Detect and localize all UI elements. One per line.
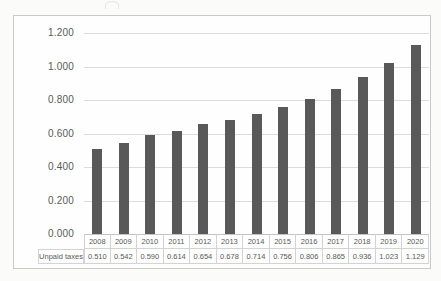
bar-2010 xyxy=(145,135,155,234)
table-value-cell: 0.542 xyxy=(111,249,138,264)
table-value-cell: 0.714 xyxy=(243,249,270,264)
y-tick-label: 0.000 xyxy=(24,229,74,239)
table-year-cell: 2013 xyxy=(217,234,244,249)
y-tick-label: 0.800 xyxy=(24,95,74,105)
table-year-cell: 2012 xyxy=(190,234,217,249)
bar-2017 xyxy=(331,89,341,234)
bar-2015 xyxy=(278,107,288,234)
bar-chart: 0.0000.2000.4000.6000.8001.0001.20020080… xyxy=(13,15,431,269)
table-year-cell: 2015 xyxy=(270,234,297,249)
bar-2013 xyxy=(225,120,235,234)
gridline xyxy=(84,100,429,101)
table-value-cell: 0.654 xyxy=(190,249,217,264)
table-year-cell: 2011 xyxy=(164,234,191,249)
bar-2012 xyxy=(198,124,208,234)
table-year-cell: 2018 xyxy=(349,234,376,249)
table-value-cell: 0.678 xyxy=(217,249,244,264)
bar-2019 xyxy=(384,63,394,234)
table-value-cell: 0.936 xyxy=(349,249,376,264)
table-value-cell: 0.614 xyxy=(164,249,191,264)
table-value-cell: 0.865 xyxy=(323,249,350,264)
table-value-cell: 0.590 xyxy=(137,249,164,264)
table-year-cell: 2010 xyxy=(137,234,164,249)
y-tick-label: 0.200 xyxy=(24,196,74,206)
bar-2008 xyxy=(92,149,102,234)
gridline xyxy=(84,33,429,34)
table-value-cell: 0.510 xyxy=(84,249,111,264)
table-year-cell: 2008 xyxy=(84,234,111,249)
table-year-cell: 2019 xyxy=(376,234,403,249)
bar-2009 xyxy=(119,143,129,234)
series-label-cell: Unpaid taxes xyxy=(38,249,84,264)
table-year-cell: 2020 xyxy=(402,234,429,249)
table-year-cell: 2014 xyxy=(243,234,270,249)
table-year-cell: 2016 xyxy=(296,234,323,249)
scanned-document-page: 0.0000.2000.4000.6000.8001.0001.20020080… xyxy=(0,0,441,281)
bar-2018 xyxy=(358,77,368,234)
y-tick-label: 1.000 xyxy=(24,62,74,72)
bar-2016 xyxy=(305,99,315,234)
bar-2014 xyxy=(252,114,262,234)
y-tick-label: 0.400 xyxy=(24,162,74,172)
table-year-cell: 2017 xyxy=(323,234,350,249)
y-tick-label: 1.200 xyxy=(24,28,74,38)
table-value-cell: 1.129 xyxy=(402,249,429,264)
table-value-cell: 0.756 xyxy=(270,249,297,264)
gridline xyxy=(84,67,429,68)
table-value-cell: 0.806 xyxy=(296,249,323,264)
table-value-cell: 1.023 xyxy=(376,249,403,264)
y-tick-label: 0.600 xyxy=(24,129,74,139)
table-year-cell: 2009 xyxy=(111,234,138,249)
bar-2020 xyxy=(411,45,421,234)
bar-2011 xyxy=(172,131,182,234)
scan-artifact xyxy=(105,1,119,9)
